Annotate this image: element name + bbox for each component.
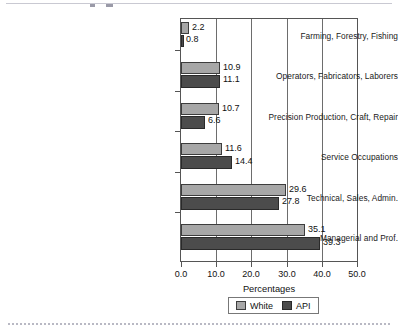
bar-value-white-operators: 10.9	[223, 62, 241, 72]
bar-white-technical	[181, 184, 286, 196]
bar-value-white-precision: 10.7	[222, 103, 240, 113]
x-tick-10	[216, 262, 217, 267]
x-axis-title: Percentages	[180, 284, 358, 294]
bar-value-white-managerial: 35.1	[308, 224, 326, 234]
legend-swatch-api-icon	[282, 301, 292, 310]
x-axis-label-40: 40.0	[302, 269, 342, 280]
category-label-farming: Farming, Forestry, Fishing	[222, 31, 398, 41]
bottom-dotted-rule	[8, 323, 390, 325]
bar-value-api-managerial: 39.3	[323, 237, 341, 247]
y-tick	[175, 131, 180, 132]
bar-api-operators	[181, 75, 220, 88]
y-tick	[175, 91, 180, 92]
legend-swatch-white-icon	[236, 301, 246, 310]
x-axis-label-50: 50.0	[337, 269, 377, 280]
bar-white-precision	[181, 103, 219, 115]
legend-label-api: API	[296, 301, 311, 311]
bar-value-api-precision: 6.6	[208, 115, 221, 125]
chart-legend: White API	[228, 297, 319, 314]
bar-chart-figure: Farming, Forestry, Fishing Operators, Fa…	[0, 0, 398, 330]
bar-value-white-service: 11.6	[225, 143, 242, 153]
bar-api-service	[181, 156, 232, 169]
x-tick-0	[181, 262, 182, 267]
bar-value-api-technical: 27.8	[282, 196, 300, 206]
bar-white-managerial	[181, 224, 305, 236]
x-tick-30	[287, 262, 288, 267]
x-axis-label-10: 10.0	[196, 269, 236, 280]
x-axis-label-20: 20.0	[231, 269, 271, 280]
x-axis-label-0: 0.0	[161, 269, 201, 280]
x-tick-20	[251, 262, 252, 267]
y-tick	[175, 50, 180, 51]
bar-value-white-farming: 2.2	[192, 22, 205, 32]
bar-api-managerial	[181, 237, 320, 250]
legend-label-white: White	[250, 301, 273, 311]
y-tick	[175, 172, 180, 173]
bar-api-technical	[181, 197, 279, 210]
bar-value-api-service: 14.4	[235, 156, 253, 166]
y-tick	[175, 212, 180, 213]
x-tick-40	[322, 262, 323, 267]
bar-white-service	[181, 143, 222, 155]
bar-value-white-technical: 29.6	[289, 184, 307, 194]
bar-api-farming	[181, 35, 184, 47]
bar-value-api-farming: 0.8	[186, 34, 199, 44]
bar-api-precision	[181, 116, 205, 129]
category-label-precision-production: Precision Production, Craft, Repair	[222, 112, 398, 122]
bar-white-farming	[181, 22, 189, 34]
x-axis-label-30: 30.0	[267, 269, 307, 280]
bar-white-operators	[181, 62, 220, 74]
x-tick-50	[357, 262, 358, 267]
category-label-operators: Operators, Fabricators, Laborers	[222, 71, 398, 81]
legend-entry-white: White	[236, 301, 273, 311]
bar-value-api-operators: 11.1	[223, 74, 240, 84]
legend-entry-api: API	[282, 301, 311, 311]
